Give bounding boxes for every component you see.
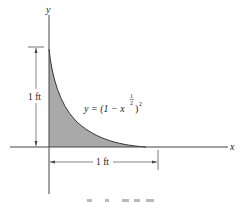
clipped-caption: [87, 199, 154, 202]
x-axis-label: x: [229, 141, 235, 152]
curve-equation: y = (1 − x 1 2 ) 2: [83, 93, 142, 115]
arrow-down-icon: [35, 141, 38, 146]
area-diagram: y x 1 ft 1 ft y = (1 − x 1 2 ) 2: [0, 0, 241, 202]
arrow-left-icon: [50, 161, 55, 164]
equation-rhs: ): [135, 103, 138, 115]
dim-vertical-label: 1 ft: [28, 92, 41, 102]
equation-exp-den: 2: [130, 100, 133, 106]
equation-lhs: y = (1 − x: [83, 103, 125, 115]
equation-outer-exp: 2: [139, 101, 142, 107]
arrow-up-icon: [35, 48, 38, 53]
arrow-right-icon: [152, 161, 157, 164]
dim-horizontal-label: 1 ft: [96, 157, 109, 167]
y-axis-label: y: [45, 4, 51, 15]
equation-exp-num: 1: [130, 93, 133, 99]
